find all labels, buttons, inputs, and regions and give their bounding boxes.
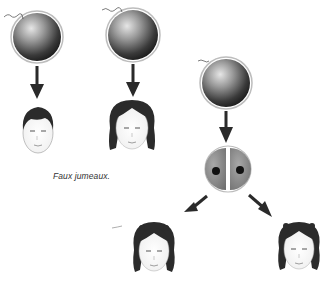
- arrow-left-down-icon: [184, 196, 207, 212]
- caption: Faux jumeaux.: [53, 171, 110, 181]
- arrow-down-icon: [30, 66, 44, 99]
- egg-2: [102, 8, 160, 62]
- twins-diagram: Faux jumeaux.: [0, 0, 328, 287]
- child-face-girl: [109, 100, 155, 150]
- egg-1: [4, 11, 63, 63]
- child-face-girl-twin-1: [133, 222, 174, 272]
- egg-3: [198, 57, 252, 109]
- sperm-tail-icon: [198, 60, 209, 62]
- child-face-boy: [23, 107, 53, 153]
- child-face-girl-twin-2: [278, 222, 319, 270]
- divided-egg: [205, 146, 251, 192]
- stray-mark: [112, 226, 122, 228]
- arrow-right-down-icon: [249, 195, 272, 217]
- arrow-down-icon: [219, 111, 233, 143]
- arrow-down-icon: [126, 64, 140, 97]
